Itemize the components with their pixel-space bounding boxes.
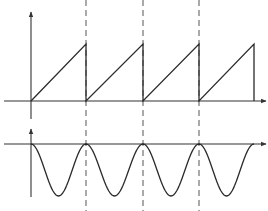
waveform-diagram: [0, 0, 268, 211]
sawtooth-waveform: [31, 44, 254, 101]
top-plot-sawtooth: [4, 12, 266, 119]
bottom-plot-cosine: [4, 129, 266, 197]
